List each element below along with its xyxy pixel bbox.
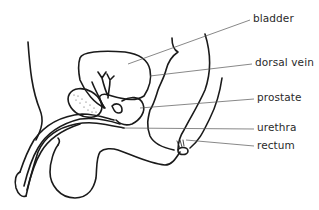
prostate-outline bbox=[116, 98, 144, 125]
abdomen-outline bbox=[28, 42, 42, 140]
spine-curve bbox=[148, 38, 178, 150]
leader-lines bbox=[122, 20, 254, 146]
label-rectum: rectum bbox=[257, 140, 295, 151]
pubic-bone-stipple bbox=[74, 95, 97, 113]
label-bladder: bladder bbox=[253, 13, 294, 24]
label-urethra: urethra bbox=[257, 122, 296, 133]
label-prostate: prostate bbox=[257, 92, 302, 103]
anatomy-drawing bbox=[0, 0, 319, 210]
label-dorsal-vein: dorsal vein bbox=[255, 57, 314, 68]
penis-lower bbox=[26, 123, 124, 196]
thigh-inner bbox=[58, 138, 60, 145]
scrotum bbox=[50, 145, 180, 198]
prostate-detail bbox=[112, 104, 122, 113]
rectum-curve bbox=[178, 34, 210, 150]
anus bbox=[178, 148, 188, 155]
anatomy-diagram: bladder dorsal vein prostate urethra rec… bbox=[0, 0, 319, 210]
